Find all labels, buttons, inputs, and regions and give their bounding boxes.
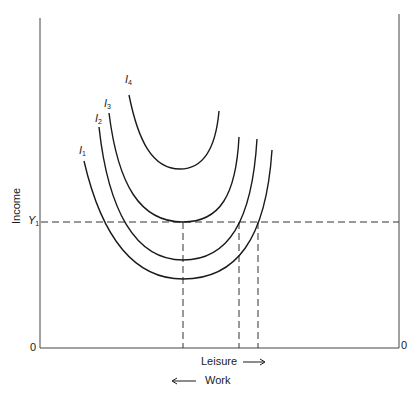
- left-arrow-icon: [172, 378, 196, 384]
- y-axis-label: Income: [10, 186, 22, 226]
- curve-label-i4: I4: [125, 73, 132, 86]
- income-level-subscript: 1: [35, 220, 39, 227]
- origin-left-label: 0: [30, 341, 36, 353]
- income-level-label: Y1: [28, 214, 39, 227]
- indifference-curve-i4: [129, 95, 219, 169]
- curve-subscript: 1: [82, 150, 86, 157]
- indifference-curve-i2: [99, 127, 257, 260]
- right-arrow-icon: [243, 359, 265, 365]
- curve-subscript: 2: [98, 118, 102, 125]
- x-axis-label: Leisure: [201, 355, 237, 367]
- indifference-curve-diagram: [0, 0, 418, 393]
- curve-label-i3: I3: [104, 97, 111, 110]
- origin-right-label: 0: [401, 339, 407, 351]
- curve-label-i1: I1: [79, 144, 86, 157]
- indifference-curve-i3: [109, 113, 239, 222]
- work-label: Work: [205, 374, 230, 386]
- curve-subscript: 4: [128, 79, 132, 86]
- curve-subscript: 3: [107, 103, 111, 110]
- curve-label-i2: I2: [95, 112, 102, 125]
